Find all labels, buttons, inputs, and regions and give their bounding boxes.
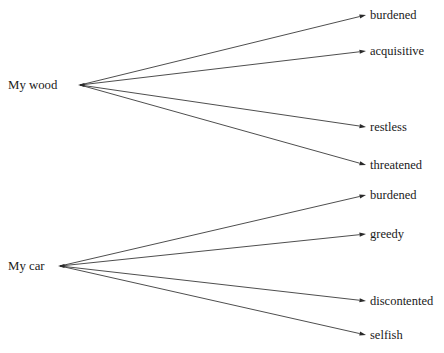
- root-arrow-head-icon: [78, 83, 85, 87]
- edge-my-car-1: [60, 235, 360, 266]
- root-node-my-wood: My wood: [8, 79, 57, 92]
- leaf-node-my-wood-threatened: threatened: [370, 159, 422, 172]
- edge-my-car-3: [60, 266, 360, 334]
- leaf-node-my-wood-restless: restless: [370, 121, 407, 134]
- leaf-node-my-car-selfish: selfish: [370, 329, 403, 342]
- arrow-head-icon: [359, 298, 366, 302]
- leaf-node-my-car-greedy: greedy: [370, 228, 404, 241]
- leaf-node-my-car-burdened: burdened: [370, 189, 417, 202]
- arrow-head-icon: [359, 332, 366, 336]
- leaf-node-my-car-discontented: discontented: [370, 295, 433, 308]
- root-arrow-head-icon: [58, 264, 65, 268]
- edge-my-wood-0: [80, 17, 360, 85]
- arrow-head-icon: [359, 194, 366, 198]
- leaf-node-my-wood-burdened: burdened: [370, 9, 417, 22]
- edge-my-car-0: [60, 196, 360, 266]
- leaf-node-my-wood-acquisitive: acquisitive: [370, 45, 424, 58]
- root-node-my-car: My car: [8, 260, 45, 273]
- arrow-head-icon: [359, 15, 366, 19]
- edge-group-my-car: [58, 194, 366, 335]
- edge-my-car-2: [60, 266, 360, 300]
- arrow-head-icon: [359, 161, 366, 165]
- arrow-head-icon: [359, 50, 366, 54]
- edge-my-wood-2: [80, 85, 360, 126]
- edge-my-wood-1: [80, 52, 360, 85]
- arrow-head-icon: [359, 124, 366, 128]
- edge-group-my-wood: [78, 15, 366, 166]
- arrow-head-icon: [359, 233, 366, 237]
- edge-my-wood-3: [80, 85, 360, 163]
